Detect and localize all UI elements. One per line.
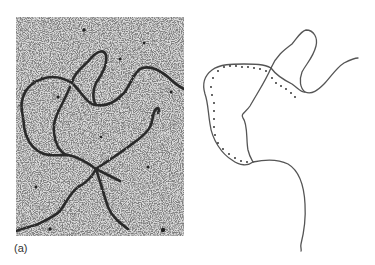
tracing-line — [204, 30, 358, 251]
panel-label: (a) — [14, 242, 27, 254]
figure: (a) — [0, 0, 375, 265]
electron-micrograph — [16, 17, 184, 236]
dotted-loop-marker — [210, 65, 296, 163]
micrograph-grain — [16, 17, 184, 236]
strand-tracing-diagram — [190, 0, 375, 265]
